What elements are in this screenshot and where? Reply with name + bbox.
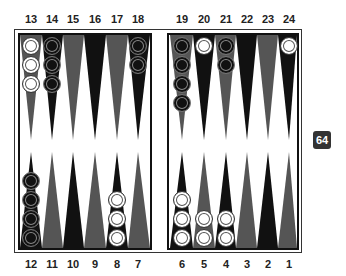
point-11[interactable] [42, 152, 63, 248]
point-3[interactable] [236, 152, 257, 248]
checker-black[interactable] [43, 37, 61, 55]
checker-white[interactable] [195, 210, 213, 228]
checker-black[interactable] [43, 56, 61, 74]
point-17[interactable] [106, 35, 128, 140]
checker-black[interactable] [22, 210, 40, 228]
checker-white[interactable] [217, 229, 235, 247]
checker-black[interactable] [129, 56, 147, 74]
checker-white[interactable] [108, 191, 126, 209]
checker-black[interactable] [129, 37, 147, 55]
point-10[interactable] [63, 152, 84, 248]
point-15[interactable] [63, 35, 84, 140]
point-23[interactable] [257, 35, 278, 140]
checker-black[interactable] [22, 172, 40, 190]
checker-black[interactable] [173, 94, 191, 112]
checker-white[interactable] [173, 210, 191, 228]
checker-black[interactable] [173, 75, 191, 93]
doubling-cube[interactable]: 64 [313, 131, 331, 149]
point-22[interactable] [236, 35, 257, 140]
checker-white[interactable] [217, 210, 235, 228]
checker-white[interactable] [22, 37, 40, 55]
checker-black[interactable] [43, 75, 61, 93]
checker-white[interactable] [22, 75, 40, 93]
checker-white[interactable] [108, 229, 126, 247]
point-16[interactable] [84, 35, 106, 140]
point-9[interactable] [84, 152, 106, 248]
checker-black[interactable] [173, 56, 191, 74]
checker-black[interactable] [22, 191, 40, 209]
checker-white[interactable] [195, 37, 213, 55]
checker-white[interactable] [22, 56, 40, 74]
checker-white[interactable] [280, 37, 298, 55]
checker-black[interactable] [217, 37, 235, 55]
checker-black[interactable] [173, 37, 191, 55]
point-2[interactable] [257, 152, 278, 248]
checker-white[interactable] [173, 191, 191, 209]
checker-black[interactable] [217, 56, 235, 74]
point-7[interactable] [128, 152, 150, 248]
checker-white[interactable] [108, 210, 126, 228]
point-1[interactable] [278, 152, 297, 248]
checker-black[interactable] [22, 229, 40, 247]
checker-white[interactable] [173, 229, 191, 247]
checker-white[interactable] [195, 229, 213, 247]
